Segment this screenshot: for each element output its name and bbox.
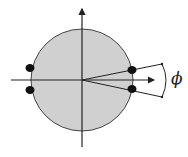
diagram-canvas <box>0 0 188 157</box>
arc-end-lower <box>161 96 163 98</box>
dot-lower-right <box>128 85 137 93</box>
arc-end-upper <box>161 63 163 65</box>
angle-label-phi: ϕ <box>171 68 183 88</box>
angle-arc <box>162 64 166 97</box>
dot-upper-right <box>128 66 137 74</box>
dot-lower-left <box>26 86 35 94</box>
dot-upper-left <box>26 64 35 72</box>
